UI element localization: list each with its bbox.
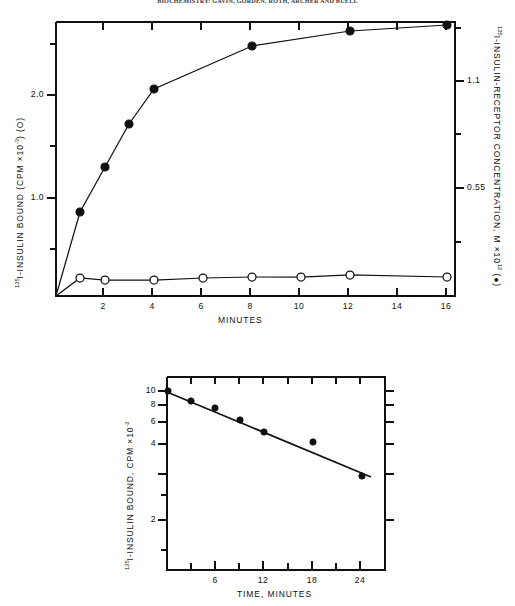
bottom-x-tick-6: 6 — [201, 575, 229, 585]
bottom-left-axis-title-isotope: 125 — [124, 560, 130, 570]
bottom-left-tick-6: 6 — [132, 416, 156, 426]
bottom-left-axis-title: 125I-INSULIN BOUND, CPM ×10-2 — [124, 421, 135, 570]
bottom-panel-plot — [0, 350, 515, 606]
bottom-x-tick-12: 12 — [249, 575, 277, 585]
right-axis-ticks — [455, 28, 464, 242]
bottom-left-axis-ticks — [158, 391, 167, 550]
top-right-axis-title-isotope: 125 — [497, 26, 503, 36]
bottom-x-axis-ticks — [191, 561, 360, 570]
bottom-right-axis-ticks — [385, 391, 394, 520]
top-left-axis-title: 125I-INSULIN BOUND (CPM ×10-3) (O) — [14, 117, 25, 288]
top-right-axis-title-post: (●) — [492, 270, 502, 287]
bottom-left-axis-title-main: I-INSULIN BOUND, CPM ×10 — [125, 427, 135, 561]
bottom-x-tick-18: 18 — [298, 575, 326, 585]
top-left-axis-title-main: I-INSULIN BOUND (CPM ×10 — [15, 144, 25, 278]
regression-line — [167, 392, 371, 477]
top-x-tick-14: 14 — [382, 301, 412, 311]
top-x-tick-10: 10 — [284, 301, 314, 311]
bottom-x-tick-24: 24 — [346, 575, 374, 585]
top-right-tick-0-55: 0.55 — [467, 182, 485, 192]
figure-top-panel: 2.0 1.0 1.1 0.55 2 4 6 8 10 12 14 16 MIN… — [0, 0, 515, 340]
top-x-tick-16: 16 — [431, 301, 461, 311]
top-x-tick-8: 8 — [235, 301, 265, 311]
top-left-tick-2-0: 2.0 — [14, 89, 44, 99]
top-right-tick-1-1: 1.1 — [467, 75, 480, 85]
bottom-top-axis-ticks — [191, 377, 360, 384]
figure-bottom-panel: 10 8 6 4 2 6 12 18 24 TIME, MINUTES 125I… — [0, 350, 515, 606]
top-left-axis-title-exp: -3 — [14, 139, 20, 144]
series-points-decay — [165, 388, 365, 479]
bottom-x-axis-title: TIME, MINUTES — [237, 589, 312, 599]
bottom-left-tick-2: 2 — [132, 514, 156, 524]
top-x-tick-6: 6 — [186, 301, 216, 311]
bottom-left-tick-10: 10 — [132, 385, 156, 395]
top-x-tick-2: 2 — [88, 301, 118, 311]
bottom-axis-ticks — [103, 288, 446, 296]
top-x-tick-4: 4 — [137, 301, 167, 311]
bottom-left-tick-8: 8 — [132, 399, 156, 409]
bottom-left-tick-4: 4 — [132, 438, 156, 448]
top-right-axis-title: 125I-INSULIN-RECEPTOR CONCENTRATION, M ×… — [492, 26, 503, 287]
top-x-tick-12: 12 — [333, 301, 363, 311]
left-axis-ticks — [47, 44, 56, 249]
top-right-axis-title-main: I-INSULIN-RECEPTOR CONCENTRATION, M ×10 — [492, 36, 502, 264]
top-left-axis-title-isotope: 125 — [14, 278, 20, 288]
bottom-left-axis-title-exp: -2 — [124, 421, 130, 426]
top-panel-plot — [0, 0, 515, 340]
top-left-axis-title-post: ) (O) — [15, 117, 25, 139]
series-line-receptor — [56, 25, 447, 296]
top-x-axis-title: MINUTES — [218, 315, 263, 325]
